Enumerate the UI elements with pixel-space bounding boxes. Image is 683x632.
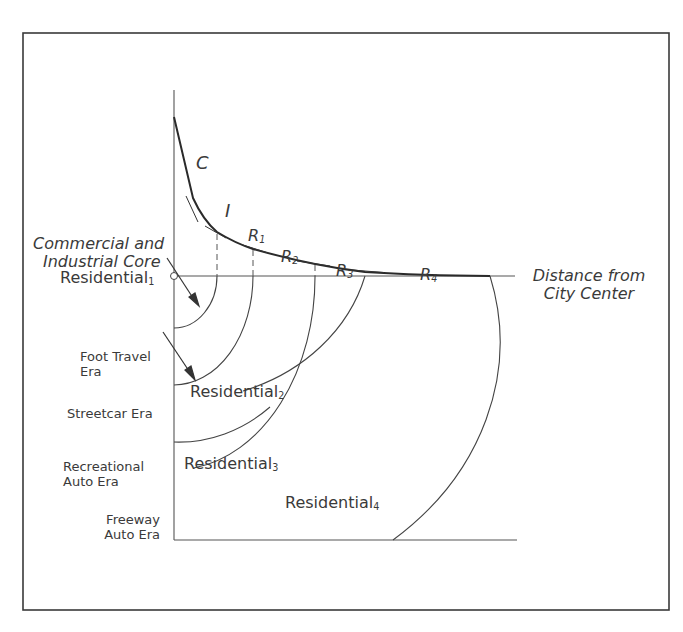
bid-rent-curve [174,117,490,276]
tangent-tick [297,261,330,266]
recreational-auto-boundary-outer [243,276,365,391]
tangent-tick [243,245,268,253]
era-recreational-auto: Recreational Auto Era [63,460,144,490]
tangent-tick [186,196,198,222]
curve-label-r1: R1 [248,227,265,245]
zone-residential-2: Residential2 [190,383,284,401]
curve-label-r3: R3 [336,262,353,280]
era-foot-travel: Foot Travel Era [80,350,151,380]
core-label-line1: Commercial and [33,235,164,253]
tangent-tick [205,226,226,238]
curve-label-r4: R4 [420,266,437,284]
curve-label-commercial: C [196,153,209,174]
era-streetcar: Streetcar Era [67,407,153,422]
zone-residential-3: Residential3 [184,455,278,473]
zone-residential-4: Residential4 [285,494,379,512]
recreational-auto-boundary-lower [174,407,270,442]
curve-label-r2: R2 [281,248,298,266]
distance-axis-label: Distance from City Center [519,267,659,304]
zone-residential-1: Residential1 [60,269,154,287]
streetcar-boundary [174,276,253,385]
freeway-auto-boundary [393,276,500,540]
era-freeway-auto: Freeway Auto Era [60,513,160,543]
core-label: Commercial and Industrial Core [33,235,164,272]
curve-label-industrial: I [225,201,230,222]
